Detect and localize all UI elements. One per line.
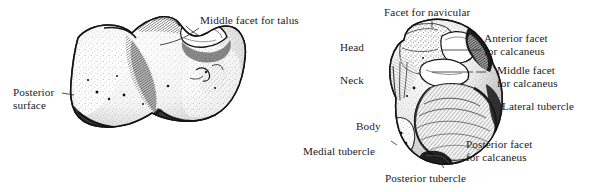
label-text-line-1: Posterior facet (466, 138, 586, 151)
leader-line-medial-tubercle (391, 141, 397, 145)
label-facet-for-navicular: Facet for navicular (384, 6, 470, 19)
label-text-line-2: for calcaneus (466, 151, 586, 164)
calcaneus-bone-illustration (68, 14, 250, 132)
label-text-line-1: Middle facet (497, 64, 605, 77)
anatomy-figure: Middle facet for talus Posterior surface… (0, 0, 606, 192)
label-text: Middle facet for talus (200, 14, 299, 27)
label-head: Head (340, 41, 364, 54)
label-text: Posterior tubercle (385, 172, 466, 185)
label-text: Facet for navicular (384, 6, 470, 19)
label-middle-facet-for-talus: Middle facet for talus (200, 14, 299, 27)
label-neck: Neck (340, 74, 364, 87)
label-medial-tubercle: Medial tubercle (303, 145, 375, 158)
label-posterior-facet-for-calcaneus: Posterior facet for calcaneus (466, 138, 586, 163)
label-text-line-1: Anterior facet (484, 32, 602, 45)
label-body: Body (356, 120, 381, 133)
label-text-line-1: Posterior (13, 86, 73, 99)
leader-line-middle-facet-talus (160, 28, 199, 45)
label-text-line-2: for calcaneus (484, 45, 602, 58)
label-lateral-tubercle: Lateral tubercle (502, 100, 574, 113)
label-posterior-tubercle: Posterior tubercle (385, 172, 466, 185)
leader-line-posterior-tubercle (432, 152, 444, 168)
label-posterior-surface: Posterior surface (13, 86, 73, 111)
label-text: Lateral tubercle (502, 100, 574, 113)
label-anterior-facet-for-calcaneus: Anterior facet for calcaneus (484, 32, 602, 57)
bone-illustrations (0, 0, 606, 192)
label-text: Neck (340, 74, 364, 87)
label-middle-facet-for-calcaneus: Middle facet for calcaneus (497, 64, 605, 89)
label-text: Medial tubercle (303, 145, 375, 158)
label-text: Head (340, 41, 364, 54)
label-text-line-2: for calcaneus (497, 77, 605, 90)
label-text: Body (356, 120, 381, 133)
label-text-line-2: surface (13, 99, 73, 112)
